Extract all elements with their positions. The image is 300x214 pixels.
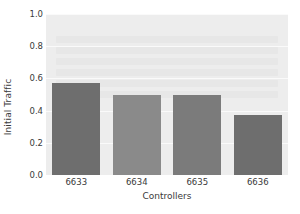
y-tick-label: 0.6 <box>17 73 43 83</box>
plot-area <box>46 14 288 175</box>
bar <box>52 83 100 175</box>
y-tick-label: 0.2 <box>17 138 43 148</box>
y-tick-label: 0.4 <box>17 106 43 116</box>
y-axis-label: Initial Traffic <box>0 0 16 214</box>
bar-series <box>46 14 288 175</box>
x-tick-label: 6634 <box>126 177 148 187</box>
x-tick-label: 6633 <box>65 177 87 187</box>
y-tick-label: 0.0 <box>17 170 43 180</box>
x-tick-label: 6636 <box>247 177 269 187</box>
x-axis-tick-labels: 6633663466356636 <box>46 177 288 191</box>
bar <box>113 95 161 176</box>
y-tick-label: 0.8 <box>17 41 43 51</box>
bar <box>234 115 282 175</box>
y-tick-label: 1.0 <box>17 9 43 19</box>
x-axis-label: Controllers <box>46 191 288 201</box>
bar-chart-figure: Initial Traffic 0.00.20.40.60.81.0 66336… <box>0 0 300 214</box>
y-axis-tick-labels: 0.00.20.40.60.81.0 <box>17 0 43 214</box>
bar <box>173 95 221 176</box>
x-tick-label: 6635 <box>186 177 208 187</box>
